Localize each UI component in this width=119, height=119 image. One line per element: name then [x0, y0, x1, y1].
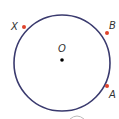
- circle-outline: [14, 15, 110, 111]
- point-a: [105, 84, 109, 88]
- label-a: A: [108, 89, 116, 100]
- point-x: [22, 25, 26, 29]
- center-point-o: [60, 58, 64, 62]
- point-b: [105, 31, 109, 35]
- label-o: O: [58, 43, 66, 54]
- circle-diagram: O X B A: [0, 0, 119, 119]
- label-b: B: [109, 20, 116, 31]
- label-x: X: [10, 21, 19, 32]
- partial-arc-fragment: [70, 116, 84, 119]
